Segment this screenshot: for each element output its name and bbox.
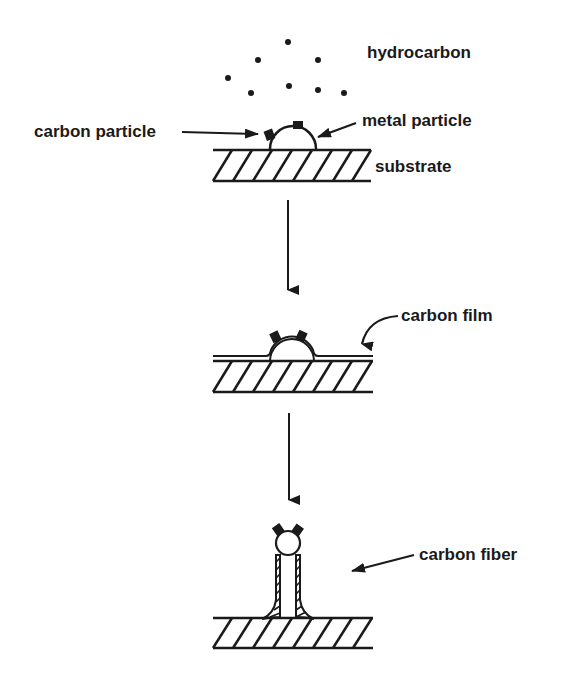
substrate-stage-1 xyxy=(213,150,371,181)
substrate-stage-3 xyxy=(213,618,373,648)
substrate-stage-2 xyxy=(213,361,373,392)
metal-particle xyxy=(270,126,316,149)
arrow-to-metal-particle xyxy=(318,123,356,137)
hydrocarbon-molecules xyxy=(225,39,347,96)
label-hydrocarbon: hydrocarbon xyxy=(367,43,471,62)
arrow-to-carbon-film xyxy=(362,316,398,344)
stage-3: carbon fiber xyxy=(213,523,518,648)
arrow-to-carbon-fiber xyxy=(352,555,414,571)
label-substrate: substrate xyxy=(375,157,452,176)
label-carbon-film: carbon film xyxy=(401,306,493,325)
label-metal-particle: metal particle xyxy=(362,111,472,130)
carbon-particle-top xyxy=(293,121,303,129)
stage-2: carbon film xyxy=(213,306,493,392)
arrow-to-carbon-particle xyxy=(182,132,258,134)
stage-1: hydrocarbon carbon particle metal partic… xyxy=(34,39,472,181)
label-carbon-particle: carbon particle xyxy=(34,122,156,141)
carbon-fiber xyxy=(262,555,314,619)
diagram-canvas: hydrocarbon carbon particle metal partic… xyxy=(0,0,564,674)
carbon-particle-left-s2 xyxy=(269,330,281,343)
label-carbon-fiber: carbon fiber xyxy=(419,545,518,564)
